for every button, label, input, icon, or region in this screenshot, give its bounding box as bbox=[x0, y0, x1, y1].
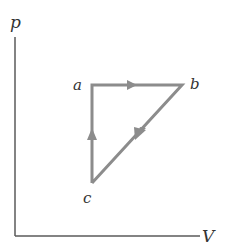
point-a-label: a bbox=[73, 76, 82, 94]
y-axis-label: p bbox=[10, 12, 21, 32]
point-b-label: b bbox=[190, 75, 200, 93]
arrow-a-to-b-icon bbox=[127, 80, 137, 90]
arrow-c-to-a-icon bbox=[87, 128, 97, 140]
pv-diagram: p V a b c bbox=[0, 0, 229, 251]
x-axis-label: V bbox=[202, 226, 216, 246]
point-c-label: c bbox=[83, 189, 92, 207]
